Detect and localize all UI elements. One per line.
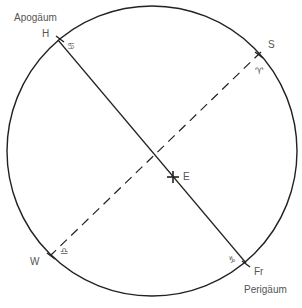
apsidal-line [58,40,246,263]
equinox-line [51,52,261,255]
tick-W [47,253,55,259]
point-H-label: H [42,28,49,39]
point-S-label: S [268,39,275,50]
libra-symbol-icon: ♎ [60,246,68,256]
capricorn-symbol-icon: ♑ [228,255,236,265]
point-Fr-label: Fr [254,266,264,277]
apogee-label: Apogäum [14,12,57,23]
orbit-diagram: Apogäum H S E W Fr Perigäum ♋ ♈ ♎ ♑ [0,0,302,308]
perigee-label: Perigäum [244,284,287,295]
aries-symbol-icon: ♈ [255,66,264,76]
point-E-label: E [183,171,190,182]
point-W-label: W [30,256,40,267]
cancer-symbol-icon: ♋ [67,41,75,51]
